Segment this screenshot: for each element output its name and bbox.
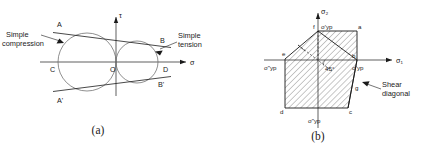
panel-a-mohr-circles: σ τ A B A' B' C D O Simple compression bbox=[0, 0, 212, 165]
panel-b-caption: (b) bbox=[311, 130, 325, 143]
vertex-label-d: d bbox=[280, 108, 284, 115]
sigma1-axis-arrow bbox=[386, 58, 392, 62]
simple-compression-arrowhead bbox=[57, 39, 65, 44]
shear-diagonal-leader bbox=[367, 84, 381, 89]
shear-diagonal-label-line2: diagonal bbox=[382, 89, 410, 98]
panel-b-svg: σ₁ σ₂ 45° a b c d e f g σ'yp σ"yp σ'yp bbox=[212, 0, 425, 165]
panel-a-caption: (a) bbox=[92, 124, 105, 137]
vertex-label-a: a bbox=[358, 23, 362, 30]
lower-envelope-line bbox=[53, 77, 171, 92]
sigma2-axis-label: σ₂ bbox=[321, 7, 328, 16]
panel-b-yield-hexagon: σ₁ σ₂ 45° a b c d e f g σ'yp σ"yp σ'yp bbox=[212, 0, 425, 165]
yield-hexagon-fill bbox=[285, 31, 357, 108]
shear-diagonal-label-line1: Shear bbox=[382, 80, 402, 89]
sigma-axis-arrow bbox=[180, 60, 186, 64]
vertex-label-e: e bbox=[282, 50, 286, 57]
panel-a-svg: σ τ A B A' B' C D O Simple compression bbox=[0, 0, 212, 165]
tau-axis-label: τ bbox=[119, 11, 122, 20]
stress-label-right: σ'yp bbox=[352, 64, 364, 71]
stress-label-top: σ'yp bbox=[321, 23, 333, 30]
simple-tension-label-line1: Simple bbox=[178, 31, 201, 40]
shear-diagonal-arrowhead bbox=[362, 81, 370, 86]
upper-envelope-line bbox=[53, 33, 171, 48]
simple-compression-label-line1: Simple bbox=[6, 30, 29, 39]
stress-label-left: σ"yp bbox=[264, 64, 277, 71]
vertex-label-f: f bbox=[313, 23, 315, 30]
figure-root: σ τ A B A' B' C D O Simple compression bbox=[0, 0, 425, 165]
point-label-B: B bbox=[160, 36, 165, 45]
vertex-label-g: g bbox=[355, 84, 359, 91]
simple-compression-label-line2: compression bbox=[2, 39, 44, 48]
stress-label-bottom: σ"yp bbox=[308, 117, 321, 124]
vertex-label-b: b bbox=[352, 52, 356, 59]
point-label-O: O bbox=[110, 65, 116, 74]
angle-label-45: 45° bbox=[325, 65, 335, 72]
tau-axis-arrow bbox=[114, 17, 118, 23]
sigma2-axis-arrow bbox=[316, 13, 320, 19]
point-label-B-prime: B' bbox=[158, 80, 165, 89]
point-label-D: D bbox=[163, 65, 168, 74]
sigma1-axis-label: σ₁ bbox=[396, 56, 403, 65]
point-label-C: C bbox=[50, 65, 55, 74]
vertex-label-c: c bbox=[349, 108, 352, 115]
point-label-A: A bbox=[57, 20, 62, 29]
sigma-axis-label: σ bbox=[190, 58, 195, 67]
point-label-A-prime: A' bbox=[57, 96, 64, 105]
simple-tension-label-line2: tension bbox=[178, 40, 202, 49]
